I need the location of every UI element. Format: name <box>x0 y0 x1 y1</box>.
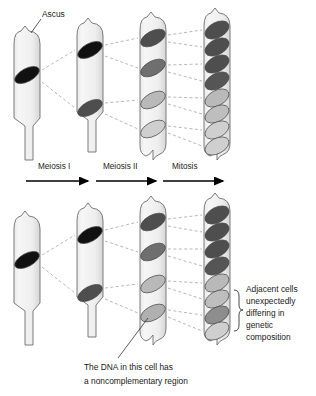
bracket-note-line-2: unexpectedly <box>246 296 296 306</box>
connector-group-meiosis-i-bottom <box>42 235 75 293</box>
ascus-1-zygote-top <box>12 26 42 160</box>
ascus-3-meiosis-ii-bottom <box>138 196 168 345</box>
top-row: Ascus <box>12 8 232 160</box>
ascus-4-mitosis-top <box>202 8 232 160</box>
stage-label-meiosis-ii: Meiosis II <box>103 162 138 171</box>
connector-group-mitosis-top <box>168 30 202 146</box>
bracket-note-line-4: genetic <box>246 320 273 330</box>
ascus-2-meiosis-i-top <box>75 18 105 152</box>
connector-group-meiosis-ii-bottom <box>105 222 138 313</box>
bracket-note-line-1: Adjacent cells <box>246 284 298 294</box>
ascus-4-mitosis-bottom <box>202 193 232 345</box>
ascus-leader-line <box>31 19 41 33</box>
ascus-1-zygote-bottom <box>12 211 42 345</box>
bottom-note-line-1: The DNA in this cell has <box>84 362 173 372</box>
adjacent-cells-brace <box>234 290 243 331</box>
bracket-note: Adjacent cells unexpectedly differing in… <box>246 284 298 342</box>
connector-group-meiosis-i-top <box>42 50 75 108</box>
bracket-note-line-3: differing in <box>246 308 285 318</box>
connector-group-meiosis-ii-top <box>105 38 138 129</box>
stage-label-mitosis: Mitosis <box>172 162 197 171</box>
bracket-note-line-5: composition <box>246 332 291 342</box>
connector-group-mitosis-bottom <box>168 215 202 331</box>
bottom-note-line-2: a noncomplementary region <box>84 376 188 386</box>
bottom-note: The DNA in this cell has a noncomplement… <box>84 362 188 386</box>
stage-label-meiosis-i: Meiosis I <box>38 162 70 171</box>
stage-arrow-row: Meiosis I Meiosis II Mitosis <box>26 162 223 181</box>
ascus-label: Ascus <box>42 9 65 19</box>
ascus-2-meiosis-i-bottom <box>75 203 105 337</box>
ascus-3-meiosis-ii-top <box>138 12 168 160</box>
ascus-meiosis-diagram: Ascus Meiosis I Meiosis II Mitosis <box>0 0 316 396</box>
bottom-row: Adjacent cells unexpectedly differing in… <box>12 193 298 386</box>
